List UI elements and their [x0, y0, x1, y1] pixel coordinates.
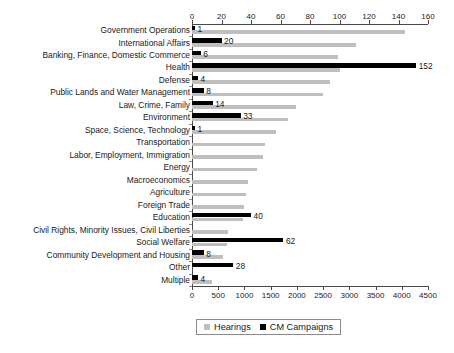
- category-label: Government Operations: [0, 25, 190, 35]
- bar-cm-campaigns: [192, 213, 251, 218]
- top-axis-tick-label: 60: [276, 12, 285, 21]
- bottom-axis-tick-label: 3500: [367, 291, 385, 300]
- bottom-axis-tick-label: 1500: [262, 291, 280, 300]
- bar-row: Education40: [192, 211, 428, 223]
- bar-row: Public Lands and Water Management8: [192, 86, 428, 98]
- bar-value-label: 33: [243, 112, 252, 121]
- top-axis-tick-label: 140: [392, 12, 405, 21]
- category-label: Civil Rights, Minority Issues, Civil Lib…: [0, 225, 190, 235]
- bar-hearings: [192, 218, 243, 222]
- bar-hearings: [192, 230, 228, 234]
- bar-row: Civil Rights, Minority Issues, Civil Lib…: [192, 224, 428, 236]
- bar-hearings: [192, 180, 248, 184]
- category-label: Energy: [0, 162, 190, 172]
- bar-value-label: 62: [286, 237, 295, 246]
- bar-hearings: [192, 243, 227, 247]
- top-axis-tick-label: 40: [247, 12, 256, 21]
- bar-value-label: 8: [206, 87, 211, 96]
- bar-row: Multiple4: [192, 274, 428, 286]
- bar-row: Foreign Trade: [192, 199, 428, 211]
- category-label: Environment: [0, 112, 190, 122]
- category-label: Public Lands and Water Management: [0, 87, 190, 97]
- bar-hearings: [192, 105, 296, 109]
- legend-item-cm-campaigns: CM Campaigns: [260, 322, 333, 332]
- bar-hearings: [192, 80, 330, 84]
- bar-hearings: [192, 43, 356, 47]
- bar-value-label: 28: [236, 262, 245, 271]
- top-axis-tick-label: 160: [421, 12, 434, 21]
- category-label: Transportation: [0, 137, 190, 147]
- bottom-axis-tick-label: 2000: [288, 291, 306, 300]
- bar-hearings: [192, 143, 265, 147]
- bar-cm-campaigns: [192, 88, 204, 93]
- bar-value-label: 4: [200, 275, 205, 284]
- bar-cm-campaigns: [192, 238, 283, 243]
- bar-value-label: 1: [198, 25, 203, 34]
- bar-cm-campaigns: [192, 126, 195, 131]
- bar-cm-campaigns: [192, 51, 201, 56]
- bar-value-label: 20: [224, 37, 233, 46]
- bar-cm-campaigns: [192, 63, 416, 68]
- bar-hearings: [192, 168, 257, 172]
- bar-row: Agriculture: [192, 186, 428, 198]
- bar-hearings: [192, 118, 288, 122]
- category-label: Law, Crime, Family: [0, 100, 190, 110]
- bar-row: Health152: [192, 61, 428, 73]
- category-label: Agriculture: [0, 187, 190, 197]
- bar-row: Social Welfare62: [192, 236, 428, 248]
- bar-value-label: 40: [254, 212, 263, 221]
- chart-legend: Hearings CM Campaigns: [196, 319, 341, 335]
- category-label: Banking, Finance, Domestic Commerce: [0, 50, 190, 60]
- category-label: Labor, Employment, Immigration: [0, 150, 190, 160]
- bottom-axis-tick-label: 4500: [419, 291, 437, 300]
- bar-cm-campaigns: [192, 113, 241, 118]
- bar-row: Other28: [192, 261, 428, 273]
- legend-item-hearings: Hearings: [204, 322, 251, 332]
- bottom-axis-tick: [218, 286, 219, 290]
- category-label: Education: [0, 212, 190, 222]
- category-label: Multiple: [0, 275, 190, 285]
- bar-value-label: 8: [206, 250, 211, 259]
- bottom-axis-tick-label: 0: [190, 291, 194, 300]
- bar-row: Transportation: [192, 136, 428, 148]
- bottom-axis-tick-label: 500: [212, 291, 225, 300]
- bar-row: Government Operations1: [192, 24, 428, 36]
- bar-cm-campaigns: [192, 101, 213, 106]
- category-label: Defense: [0, 75, 190, 85]
- bottom-axis-tick-label: 3000: [340, 291, 358, 300]
- bar-row: Defense4: [192, 74, 428, 86]
- bar-row: Energy: [192, 161, 428, 173]
- bottom-axis-tick: [244, 286, 245, 290]
- top-axis-tick-label: 100: [333, 12, 346, 21]
- bar-cm-campaigns: [192, 26, 195, 31]
- category-tick: [189, 286, 192, 287]
- plot-area: 020406080100120140160 050010001500200025…: [192, 24, 428, 286]
- bar-hearings: [192, 68, 340, 72]
- category-label: Macroeconomics: [0, 175, 190, 185]
- category-label: Community Development and Housing: [0, 250, 190, 260]
- bar-row: Banking, Finance, Domestic Commerce6: [192, 49, 428, 61]
- bar-hearings: [192, 93, 323, 97]
- bar-cm-campaigns: [192, 38, 222, 43]
- category-label: International Affairs: [0, 38, 190, 48]
- top-axis-tick-label: 0: [190, 12, 194, 21]
- bar-value-label: 152: [419, 62, 433, 71]
- category-label: Social Welfare: [0, 237, 190, 247]
- legend-swatch-icon-cm-campaigns: [260, 324, 266, 330]
- bar-row: Community Development and Housing8: [192, 249, 428, 261]
- bar-row: Labor, Employment, Immigration: [192, 149, 428, 161]
- bottom-axis-tick: [349, 286, 350, 290]
- bottom-axis-tick: [192, 286, 193, 290]
- bottom-axis-tick-label: 2500: [314, 291, 332, 300]
- bar-row: Macroeconomics: [192, 174, 428, 186]
- bar-hearings: [192, 130, 276, 134]
- bottom-axis-tick: [297, 286, 298, 290]
- category-label: Health: [0, 62, 190, 72]
- bar-cm-campaigns: [192, 275, 198, 280]
- bottom-axis-tick-label: 1000: [236, 291, 254, 300]
- bar-value-label: 4: [200, 75, 205, 84]
- top-axis-tick-label: 120: [362, 12, 375, 21]
- bottom-axis-tick: [428, 286, 429, 290]
- bar-value-label: 1: [198, 125, 203, 134]
- bar-hearings: [192, 193, 246, 197]
